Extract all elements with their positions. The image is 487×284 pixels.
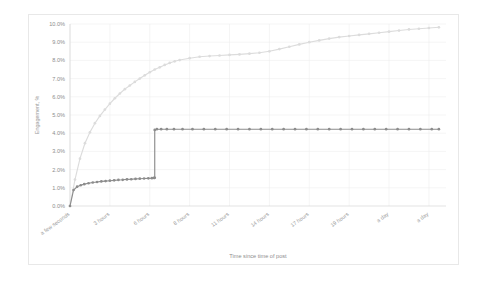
y-tick-label: 4.0%	[52, 130, 65, 136]
chart-card: 0.0%1.0%2.0%3.0%4.0%5.0%6.0%7.0%8.0%9.0%…	[28, 14, 459, 265]
data-point	[109, 102, 112, 105]
data-point	[408, 28, 411, 31]
data-point	[113, 179, 116, 182]
y-tick-label: 0.0%	[52, 203, 65, 209]
data-point	[72, 189, 75, 192]
data-point	[79, 184, 82, 187]
x-tick-label: a few seconds	[39, 211, 71, 236]
data-point	[328, 128, 331, 131]
series-line	[70, 129, 439, 206]
data-point	[83, 183, 86, 186]
data-point	[396, 128, 399, 131]
y-tick-label: 7.0%	[52, 76, 65, 82]
data-point	[385, 128, 388, 131]
data-point	[91, 181, 94, 184]
data-point	[225, 128, 228, 131]
data-point	[408, 128, 411, 131]
data-point	[143, 74, 146, 77]
data-point	[191, 128, 194, 131]
data-point	[316, 128, 319, 131]
data-point	[173, 128, 176, 131]
data-point	[114, 97, 117, 100]
data-point	[339, 128, 342, 131]
engagement-line-chart: 0.0%1.0%2.0%3.0%4.0%5.0%6.0%7.0%8.0%9.0%…	[29, 15, 458, 264]
data-point	[166, 128, 169, 131]
data-point	[438, 26, 441, 29]
y-tick-label: 10.0%	[49, 21, 65, 27]
data-point	[218, 54, 221, 57]
data-point	[368, 32, 371, 35]
x-tick-label: 14 hours	[249, 211, 270, 228]
y-tick-label: 1.0%	[52, 185, 65, 191]
data-point	[143, 177, 146, 180]
data-point	[308, 41, 311, 44]
x-axis-title: Time since time of post	[229, 253, 287, 259]
data-point	[100, 180, 103, 183]
y-axis-title: Engagement, %	[34, 96, 40, 135]
data-point	[208, 55, 211, 58]
data-point	[278, 48, 281, 51]
data-point	[288, 45, 291, 48]
data-point	[147, 177, 150, 180]
data-point	[117, 179, 120, 182]
data-point	[134, 178, 137, 181]
data-point	[362, 128, 365, 131]
x-tick-label: a day	[415, 211, 429, 224]
x-tick-label: 11 hours	[210, 211, 230, 228]
data-point	[156, 128, 159, 131]
y-tick-label: 2.0%	[52, 167, 65, 173]
data-point	[388, 30, 391, 33]
data-point	[178, 59, 181, 62]
data-series-group	[69, 26, 441, 207]
data-point	[398, 29, 401, 32]
data-point	[173, 60, 176, 63]
data-point	[153, 176, 156, 179]
data-point	[248, 128, 251, 131]
x-tick-label: 6 hours	[132, 211, 150, 227]
data-point	[198, 55, 201, 58]
data-point	[119, 92, 122, 95]
y-axis-tick-labels: 0.0%1.0%2.0%3.0%4.0%5.0%6.0%7.0%8.0%9.0%…	[49, 21, 65, 209]
data-point	[268, 50, 271, 53]
data-point	[373, 128, 376, 131]
data-point	[328, 37, 331, 40]
data-point	[138, 177, 141, 180]
data-point	[148, 71, 151, 74]
x-axis-tick-labels: a few seconds3 hours6 hours8 hours11 hou…	[39, 211, 430, 236]
data-point	[258, 51, 261, 54]
data-point	[318, 39, 321, 42]
data-point	[228, 54, 231, 57]
x-tick-label: 17 hours	[289, 211, 310, 228]
data-point	[430, 128, 433, 131]
y-tick-label: 3.0%	[52, 148, 65, 154]
data-point	[87, 182, 90, 185]
data-point	[74, 178, 77, 181]
data-point	[378, 31, 381, 34]
y-tick-label: 6.0%	[52, 94, 65, 100]
data-point	[153, 68, 156, 71]
x-tick-label: a day	[375, 211, 389, 224]
data-point	[126, 178, 129, 181]
data-point	[109, 179, 112, 182]
data-point	[123, 88, 126, 91]
data-point	[76, 185, 79, 188]
data-point	[130, 178, 133, 181]
data-point	[158, 66, 161, 69]
data-point	[104, 108, 107, 111]
data-point	[418, 27, 421, 30]
data-point	[298, 43, 301, 46]
data-point	[348, 35, 351, 38]
data-point	[305, 128, 308, 131]
y-tick-label: 5.0%	[52, 112, 65, 118]
data-point	[351, 128, 354, 131]
chart-plot-area: 0.0%1.0%2.0%3.0%4.0%5.0%6.0%7.0%8.0%9.0%…	[29, 15, 458, 264]
data-point	[94, 122, 97, 125]
y-tick-label: 8.0%	[52, 57, 65, 63]
data-point	[181, 128, 184, 131]
data-point	[428, 27, 431, 30]
data-point	[128, 84, 131, 87]
data-point	[69, 205, 72, 208]
data-point	[203, 128, 206, 131]
data-point	[338, 36, 341, 39]
data-point	[138, 77, 141, 80]
